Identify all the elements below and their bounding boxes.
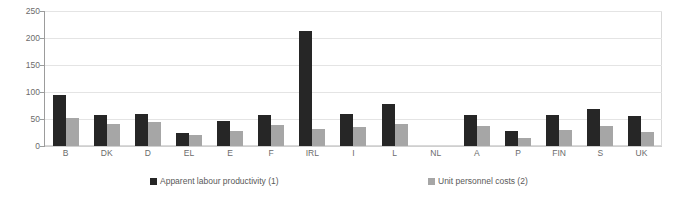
bars-area: [45, 11, 662, 146]
y-axis-tick-label: 50: [2, 115, 40, 124]
bar-group: [168, 11, 209, 146]
x-axis-tick-label: NL: [415, 148, 456, 158]
y-axis-tick-label: 150: [2, 61, 40, 70]
bar-group: [374, 11, 415, 146]
x-axis-labels: BDKDELEFIRLILNLAPFINSUK: [45, 148, 662, 164]
bar: [628, 116, 641, 146]
bar: [176, 133, 189, 146]
x-axis-tick-label: L: [374, 148, 415, 158]
x-axis-tick-label: IRL: [292, 148, 333, 158]
gridline-0: [44, 146, 662, 147]
bar: [641, 132, 654, 146]
legend-item[interactable]: Apparent labour productivity (1): [150, 177, 279, 186]
bar-group: [497, 11, 538, 146]
bar: [587, 109, 600, 146]
bar-group: [580, 11, 621, 146]
y-axis-tick-label: 100: [2, 88, 40, 97]
bar: [518, 138, 531, 146]
x-axis-tick-label: UK: [621, 148, 662, 158]
y-axis-tick-label: 250: [2, 7, 40, 16]
bar: [258, 115, 271, 146]
legend-label: Apparent labour productivity (1): [160, 177, 279, 186]
bar-group: [86, 11, 127, 146]
x-axis-tick-label: P: [497, 148, 538, 158]
bar: [94, 115, 107, 146]
bar-group: [333, 11, 374, 146]
y-tick-0: [40, 146, 45, 147]
x-axis-tick-label: S: [580, 148, 621, 158]
bar: [353, 127, 366, 146]
bar: [66, 118, 79, 146]
x-axis-tick-label: FIN: [539, 148, 580, 158]
x-axis-tick-label: DK: [86, 148, 127, 158]
x-axis-tick-label: EL: [168, 148, 209, 158]
bar: [230, 131, 243, 146]
legend-item[interactable]: Unit personnel costs (2): [428, 177, 528, 186]
legend-swatch-icon: [150, 178, 157, 185]
x-axis-tick-label: B: [45, 148, 86, 158]
bar-group: [210, 11, 251, 146]
bar: [464, 115, 477, 146]
bar-group: [251, 11, 292, 146]
bar: [477, 126, 490, 146]
bar: [135, 114, 148, 146]
x-axis-tick-label: D: [127, 148, 168, 158]
chart-legend: Apparent labour productivity (1)Unit per…: [0, 177, 680, 191]
bar: [546, 115, 559, 146]
x-axis-tick-label: I: [333, 148, 374, 158]
x-axis-tick-label: E: [210, 148, 251, 158]
bar: [340, 114, 353, 146]
bar: [189, 135, 202, 146]
bar-group: [45, 11, 86, 146]
bar: [382, 104, 395, 146]
y-axis-tick-label: 0: [2, 142, 40, 151]
y-axis-labels: 050100150200250: [0, 11, 40, 146]
bar: [299, 31, 312, 146]
bar: [148, 122, 161, 146]
y-axis-tick-label: 200: [2, 34, 40, 43]
bar-group: [621, 11, 662, 146]
bar: [312, 129, 325, 146]
bar-group: [292, 11, 333, 146]
x-axis-tick-label: A: [456, 148, 497, 158]
bar: [217, 121, 230, 146]
bar-chart: 050100150200250 BDKDELEFIRLILNLAPFINSUK …: [0, 0, 680, 200]
legend-swatch-icon: [428, 178, 435, 185]
bar-group: [415, 11, 456, 146]
bar: [505, 131, 518, 146]
legend-label: Unit personnel costs (2): [438, 177, 528, 186]
bar: [395, 124, 408, 146]
bar-group: [456, 11, 497, 146]
bar-group: [127, 11, 168, 146]
bar: [600, 126, 613, 146]
x-axis-tick-label: F: [251, 148, 292, 158]
bar: [53, 95, 66, 146]
bar: [107, 124, 120, 146]
bar: [559, 130, 572, 146]
bar-group: [539, 11, 580, 146]
bar: [271, 125, 284, 146]
